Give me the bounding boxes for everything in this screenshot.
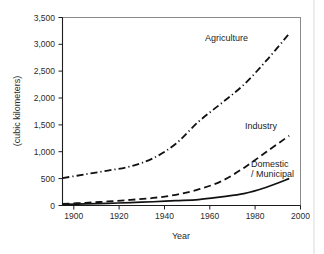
- y-tick-label-500: 500: [41, 174, 55, 184]
- y-tick-label-3000: 3,000: [34, 39, 56, 49]
- x-tick-label-1940: 1940: [155, 211, 174, 221]
- series-label-industry: Industry: [245, 121, 278, 131]
- x-axis-title: Year: [172, 231, 190, 241]
- x-tick-label-1960: 1960: [200, 211, 219, 221]
- y-tick-label-3500: 3,500: [34, 13, 56, 23]
- y-axis-title: (cubic kilometers): [12, 76, 22, 147]
- x-axis-ticks: [74, 206, 301, 210]
- y-tick-label-0: 0: [50, 201, 55, 211]
- series-label-domestic-line2: / Municipal: [251, 169, 294, 179]
- y-axis-ticks: [59, 18, 63, 206]
- series-label-domestic-line1: Domestic: [251, 159, 289, 169]
- x-tick-label-1980: 1980: [246, 211, 265, 221]
- y-tick-label-1000: 1,000: [34, 147, 56, 157]
- x-tick-label-2000: 2000: [291, 211, 310, 221]
- chart-figure: 0 500 1,000 1,500 2,000 2,500 3,000 3,50…: [0, 0, 324, 254]
- y-tick-label-1500: 1,500: [34, 120, 56, 130]
- series-label-agriculture: Agriculture: [205, 33, 248, 43]
- x-tick-label-1920: 1920: [110, 211, 129, 221]
- y-tick-label-2500: 2,500: [34, 66, 56, 76]
- x-tick-label-1900: 1900: [64, 211, 83, 221]
- y-tick-label-2000: 2,000: [34, 93, 56, 103]
- water-use-line-chart: 0 500 1,000 1,500 2,000 2,500 3,000 3,50…: [0, 0, 324, 254]
